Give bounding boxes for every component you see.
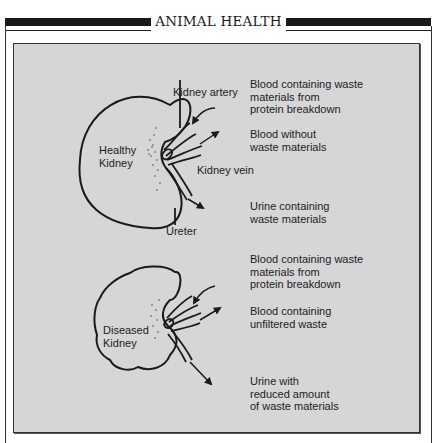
arrow-blood-in-icon xyxy=(193,108,215,123)
diseased-hilum-speckle xyxy=(150,299,159,338)
diseased-vessels xyxy=(164,296,201,362)
diseased-kidney-label: Diseased Kidney xyxy=(103,324,149,349)
diseased-blood-in-desc: Blood containing waste materials from pr… xyxy=(250,253,363,291)
arrow-urine-icon xyxy=(188,199,203,208)
arrow-blood-out-icon xyxy=(200,132,218,144)
arrow-blood-in-icon xyxy=(194,286,215,303)
diseased-urine-desc: Urine with reduced amount of waste mater… xyxy=(250,375,339,413)
kidney-artery-label: Kidney artery xyxy=(173,86,238,99)
healthy-blood-out-desc: Blood without waste materials xyxy=(250,128,326,153)
arrow-blood-out-icon xyxy=(200,308,220,320)
kidney-vein-label: Kidney vein xyxy=(197,164,254,177)
diseased-blood-out-desc: Blood containing unfiltered waste xyxy=(250,305,331,330)
ureter-label: Ureter xyxy=(166,225,197,238)
arrow-urine-icon xyxy=(190,362,211,384)
healthy-kidney-label: Healthy Kidney xyxy=(99,144,136,169)
kidney-diagram xyxy=(0,0,439,443)
healthy-urine-desc: Urine containing waste materials xyxy=(250,200,330,225)
healthy-blood-in-desc: Blood containing waste materials from pr… xyxy=(250,78,363,116)
diseased-arrows xyxy=(190,286,220,384)
healthy-hilum-speckle xyxy=(147,127,160,190)
